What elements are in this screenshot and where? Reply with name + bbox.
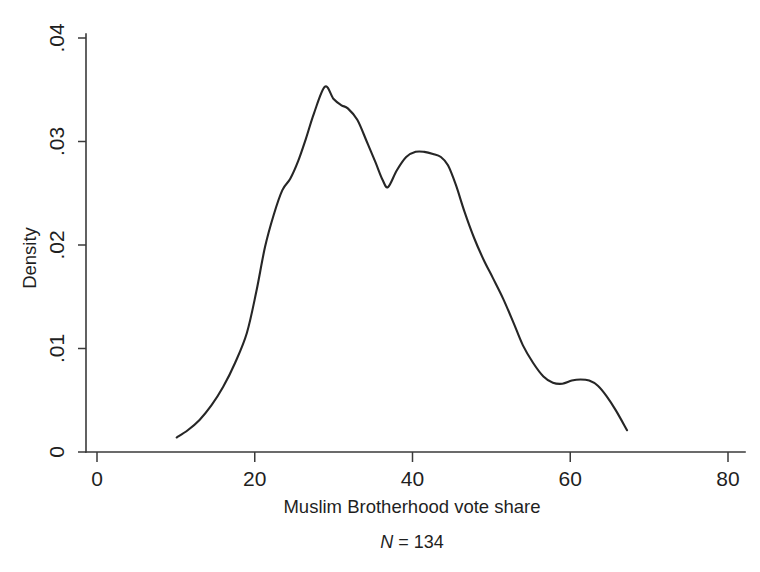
x-tick-label-1: 20 — [243, 467, 266, 490]
y-axis-ticks — [78, 38, 86, 452]
y-tick-label-3: .03 — [45, 127, 68, 156]
x-axis-tick-labels: 0 20 40 60 80 — [91, 467, 740, 490]
y-tick-label-1: .01 — [45, 334, 68, 363]
sample-size-note: N = 134 — [380, 532, 444, 552]
y-axis-title: Density — [19, 226, 40, 288]
sample-size-equals: = — [393, 532, 414, 552]
x-tick-label-2: 40 — [401, 467, 424, 490]
y-axis-tick-labels: 0 .01 .02 .03 .04 — [45, 23, 68, 458]
sample-size-value: 134 — [414, 532, 444, 552]
x-axis-title: Muslim Brotherhood vote share — [283, 496, 540, 517]
x-axis-ticks — [97, 452, 728, 462]
chart-canvas: 0 .01 .02 .03 .04 Density 0 20 40 60 80 … — [0, 0, 760, 572]
x-tick-label-3: 60 — [559, 467, 582, 490]
x-tick-label-0: 0 — [91, 467, 103, 490]
y-tick-label-2: .02 — [45, 230, 68, 259]
density-curve — [177, 86, 627, 437]
x-tick-label-4: 80 — [716, 467, 739, 490]
density-chart-figure: 0 .01 .02 .03 .04 Density 0 20 40 60 80 … — [0, 0, 760, 572]
y-tick-label-0: 0 — [45, 446, 68, 458]
cut-off-caption — [8, 560, 628, 572]
y-tick-label-4: .04 — [45, 23, 68, 53]
sample-size-symbol: N — [380, 532, 394, 552]
